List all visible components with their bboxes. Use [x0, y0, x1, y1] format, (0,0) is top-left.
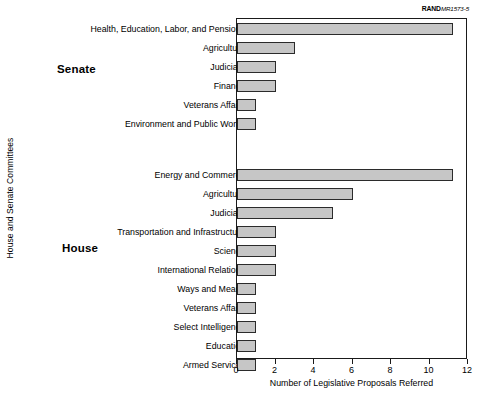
- bar-row: Transportation and Infrastructure: [0, 225, 482, 240]
- bar-row: Judiciary: [0, 60, 482, 75]
- bar-row-label: Select Intelligence: [25, 320, 245, 335]
- bar-row: Agriculture: [0, 187, 482, 202]
- x-axis-tick-label: 2: [260, 365, 290, 376]
- bar-row: Science: [0, 244, 482, 259]
- bar-row: Ways and Means: [0, 282, 482, 297]
- bar-row-label: International Relations: [25, 263, 245, 278]
- x-axis-tick-mark: [429, 359, 430, 364]
- bar-row: Energy and Commerce: [0, 168, 482, 183]
- bar-row-label: Energy and Commerce: [25, 168, 245, 183]
- bar-row-label: Veterans Affairs: [25, 98, 245, 113]
- bar: [237, 321, 256, 333]
- x-axis-tick-label: 6: [337, 365, 367, 376]
- bar-row-label: Transportation and Infrastructure: [25, 225, 245, 240]
- bar-row-label: Ways and Means: [25, 282, 245, 297]
- bar-row: Education: [0, 339, 482, 354]
- bar-row: International Relations: [0, 263, 482, 278]
- bar-row-label: Judiciary: [25, 206, 245, 221]
- bar: [237, 118, 256, 130]
- bar-row-label: Agriculture: [25, 187, 245, 202]
- rand-source-id: RANDMR1573-5: [422, 6, 469, 13]
- bar: [237, 99, 256, 111]
- bar-row-label: Education: [25, 339, 245, 354]
- bar: [237, 226, 276, 238]
- x-axis-tick-label: 8: [375, 365, 405, 376]
- bar: [237, 188, 353, 200]
- rand-label: RAND: [422, 5, 441, 12]
- bar: [237, 80, 276, 92]
- bar-row-label: Agriculture: [25, 41, 245, 56]
- x-axis-tick-label: 4: [298, 365, 328, 376]
- x-axis-tick-label: 0: [221, 365, 251, 376]
- x-axis-tick-mark: [352, 359, 353, 364]
- bar-row-label: Science: [25, 244, 245, 259]
- x-axis-tick-label: 10: [414, 365, 444, 376]
- bar-row: Judiciary: [0, 206, 482, 221]
- x-axis-tick-mark: [313, 359, 314, 364]
- bar: [237, 61, 276, 73]
- rand-number: MR1573-5: [441, 5, 469, 12]
- bar: [237, 207, 333, 219]
- bar: [237, 245, 276, 257]
- bar-row-label: Health, Education, Labor, and Pensions: [25, 22, 245, 37]
- bar-row: Veterans Affairs: [0, 98, 482, 113]
- x-axis-tick-mark: [236, 359, 237, 364]
- x-axis-tick-label: 12: [452, 365, 482, 376]
- bar-row: Select Intelligence: [0, 320, 482, 335]
- x-axis-tick-mark: [275, 359, 276, 364]
- bar: [237, 264, 276, 276]
- bar: [237, 23, 453, 35]
- bar: [237, 340, 256, 352]
- x-axis-tick-mark: [467, 359, 468, 364]
- bar-row-label: Finance: [25, 79, 245, 94]
- bar-row: Agriculture: [0, 41, 482, 56]
- bar-row: Finance: [0, 79, 482, 94]
- bar-row-label: Environment and Public Works: [25, 117, 245, 132]
- bar-row: Veterans Affairs: [0, 301, 482, 316]
- bar-row-label: Armed Services: [25, 358, 245, 373]
- bar: [237, 283, 256, 295]
- figure-container: RANDMR1573-5 House and Senate Committees…: [0, 0, 482, 396]
- x-axis-title: Number of Legislative Proposals Referred: [236, 378, 467, 388]
- bar: [237, 42, 295, 54]
- bar-row-label: Veterans Affairs: [25, 301, 245, 316]
- bar: [237, 169, 453, 181]
- bar: [237, 302, 256, 314]
- bar-row: Health, Education, Labor, and Pensions: [0, 22, 482, 37]
- bar-row: Environment and Public Works: [0, 117, 482, 132]
- x-axis-tick-mark: [390, 359, 391, 364]
- bar-row-label: Judiciary: [25, 60, 245, 75]
